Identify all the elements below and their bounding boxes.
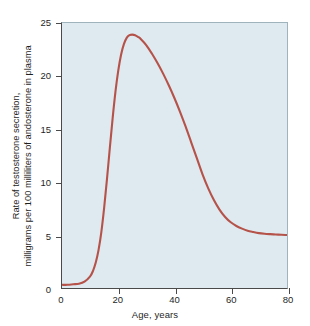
y-axis-title: Rate of testosterone secretion, milligra…: [10, 22, 36, 289]
x-tick-label: 20: [112, 294, 123, 305]
y-tick-label: 15: [40, 123, 51, 134]
x-tick-label: 0: [58, 294, 63, 305]
x-tick-label: 80: [283, 294, 294, 305]
plot-area: [61, 22, 288, 289]
y-tick-mark: [56, 130, 62, 131]
y-tick-mark: [56, 237, 62, 238]
y-tick-label: 5: [46, 230, 51, 241]
y-axis-title-line2: milligrams per 100 milliliters of andost…: [23, 45, 33, 266]
y-tick-mark: [56, 76, 62, 77]
x-tick-label: 40: [169, 294, 180, 305]
y-tick-label: 25: [40, 17, 51, 28]
figure: 0510152025 Rate of testosterone secretio…: [0, 0, 310, 326]
y-tick-label: 20: [40, 70, 51, 81]
x-axis-tick-labels: 020406080: [0, 294, 310, 310]
x-axis-title: Age, years: [0, 309, 310, 320]
x-tick-label: 60: [226, 294, 237, 305]
y-tick-label: 10: [40, 177, 51, 188]
data-curve-svg: [62, 23, 287, 288]
y-tick-mark: [56, 23, 62, 24]
series-line-testosterone: [62, 35, 287, 285]
y-tick-label: 0: [46, 284, 51, 295]
y-axis-title-line1: Rate of testosterone secretion,: [11, 92, 21, 219]
y-tick-mark: [56, 183, 62, 184]
